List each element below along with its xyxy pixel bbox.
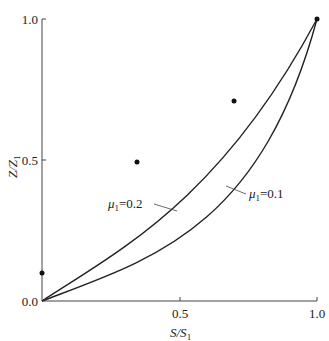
data-point <box>135 160 140 165</box>
curve-mu-0.2 <box>42 19 317 301</box>
x-tick-label-0.5: 0.5 <box>172 306 188 321</box>
data-point <box>315 17 320 22</box>
annotation-mu-0.1: μ1=0.1 <box>248 186 284 203</box>
data-point <box>232 99 237 104</box>
y-axis-label: Z/Z1 <box>5 155 22 178</box>
y-tick-label-0.0: 0.0 <box>22 294 38 309</box>
x-axis-label: S/S1 <box>170 325 191 341</box>
data-point <box>40 271 45 276</box>
chart: 1.0 0.5 0.0 0.5 1.0 S/S1 Z/Z1 μ1=0.2 μ1=… <box>0 0 329 341</box>
curve-mu-0.1 <box>42 19 317 301</box>
svg-text:Z/Z1: Z/Z1 <box>5 155 22 178</box>
x-tick-label-1.0: 1.0 <box>309 306 325 321</box>
annotation-mu-0.2: μ1=0.2 <box>107 196 143 213</box>
y-tick-label-0.5: 0.5 <box>22 153 38 168</box>
y-tick-label-1.0: 1.0 <box>22 12 38 27</box>
